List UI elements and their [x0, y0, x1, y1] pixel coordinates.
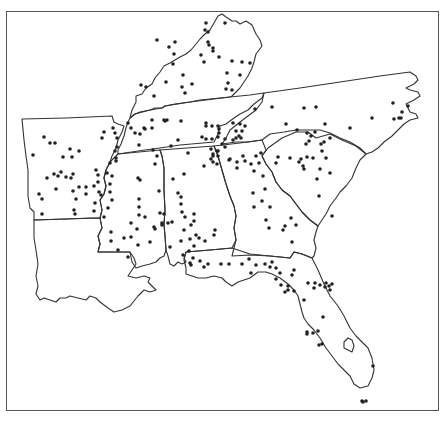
location-dot	[224, 87, 228, 91]
location-dot	[114, 159, 118, 163]
location-dot	[211, 49, 215, 53]
location-dot	[211, 154, 215, 158]
location-dot	[305, 131, 309, 135]
location-dot	[284, 122, 288, 126]
location-dot	[263, 187, 267, 191]
location-dot	[235, 160, 239, 164]
location-dot	[108, 182, 112, 186]
location-dot	[203, 28, 207, 32]
location-dot	[52, 172, 56, 176]
location-dot	[267, 226, 271, 230]
location-dot	[54, 187, 58, 191]
location-dot	[240, 129, 244, 133]
location-dot	[240, 60, 244, 64]
location-dot	[223, 21, 227, 25]
location-dot	[97, 190, 101, 194]
location-dot	[56, 174, 60, 178]
location-dot	[320, 149, 324, 153]
location-dot	[202, 60, 206, 64]
location-dot	[314, 105, 318, 109]
location-dot	[93, 201, 97, 205]
location-dot	[217, 127, 221, 131]
location-dot	[290, 240, 294, 244]
lake-okeechobee	[344, 338, 354, 352]
location-dot	[253, 107, 257, 111]
location-dot	[180, 210, 184, 214]
location-dot	[136, 243, 140, 247]
location-dot	[176, 191, 180, 195]
location-dot	[48, 141, 52, 145]
location-dot	[197, 236, 201, 240]
location-dot	[323, 285, 327, 289]
location-dot	[37, 192, 41, 196]
location-dot	[268, 265, 272, 269]
location-dot	[324, 156, 328, 160]
location-dot	[129, 126, 133, 130]
location-dot	[179, 195, 183, 199]
location-dot	[69, 176, 73, 180]
location-dot	[133, 131, 137, 135]
location-dot	[110, 198, 114, 202]
location-dot	[105, 171, 109, 175]
location-dot	[166, 221, 170, 225]
location-dot	[109, 239, 113, 243]
location-dot	[249, 271, 253, 275]
location-dot	[144, 85, 148, 89]
location-dot	[264, 218, 268, 222]
location-dot	[187, 249, 191, 253]
location-dot	[226, 81, 230, 85]
location-dot	[151, 148, 155, 152]
location-dot	[135, 227, 139, 231]
location-dot	[207, 43, 211, 47]
location-dot	[257, 161, 261, 165]
location-dot	[211, 160, 215, 164]
location-dot	[328, 171, 332, 175]
location-dot	[150, 118, 154, 122]
location-dot	[406, 104, 410, 108]
location-dot	[251, 191, 255, 195]
location-dot	[182, 228, 186, 232]
location-dot	[302, 106, 306, 110]
location-dot	[261, 174, 265, 178]
location-dot	[172, 52, 176, 56]
location-dot	[129, 235, 133, 239]
location-dot	[238, 122, 242, 126]
location-dot	[157, 189, 161, 193]
location-dot	[316, 329, 320, 333]
location-dot	[126, 121, 130, 125]
location-dot	[322, 140, 326, 144]
location-dot	[210, 137, 214, 141]
location-dot	[40, 212, 44, 216]
location-dot	[113, 149, 117, 153]
location-dot	[259, 151, 263, 155]
location-dot	[100, 136, 104, 140]
location-dot	[170, 220, 174, 224]
location-dot	[243, 159, 247, 163]
location-dot	[183, 215, 187, 219]
location-dot	[276, 155, 280, 159]
location-dot	[181, 73, 185, 77]
location-dot	[129, 221, 133, 225]
location-dot	[278, 271, 282, 275]
location-dot	[328, 136, 332, 140]
location-dot	[324, 281, 328, 285]
location-dot	[234, 129, 238, 133]
location-dot	[217, 55, 221, 59]
location-dot	[392, 117, 396, 121]
location-dot	[143, 215, 147, 219]
location-dot	[189, 223, 193, 227]
location-dot	[319, 142, 323, 146]
location-dot	[108, 161, 112, 165]
location-dot	[371, 364, 375, 368]
location-dot	[165, 118, 169, 122]
location-dot	[202, 265, 206, 269]
location-dot	[61, 155, 65, 159]
location-dot	[217, 131, 221, 135]
location-dot	[283, 290, 287, 294]
location-dot	[237, 134, 241, 138]
location-dot	[155, 38, 159, 42]
location-dot	[150, 126, 154, 130]
location-dot	[317, 343, 321, 347]
location-dot	[397, 116, 401, 120]
location-dot	[70, 155, 74, 159]
